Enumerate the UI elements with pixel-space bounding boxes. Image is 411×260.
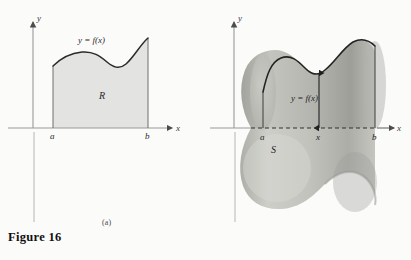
region-label-R: R — [98, 90, 105, 101]
curve-label: y = f(x) — [290, 93, 318, 103]
tick-label-b: b — [145, 131, 150, 141]
panel-caption-a: (a) — [102, 218, 111, 227]
solid-lower-shading-1 — [243, 134, 311, 202]
region-fill-R — [53, 38, 148, 128]
y-axis-label: y — [237, 13, 242, 23]
panel-b-diagram: y x y = f(x) S a x b — [205, 0, 411, 260]
tick-label-a: a — [260, 132, 265, 142]
solid-label-S: S — [271, 144, 276, 155]
x-axis-label: x — [175, 123, 180, 133]
figure-number-label: Figure 16 — [8, 230, 62, 245]
x-axis-label: x — [396, 123, 401, 133]
tick-label-b: b — [372, 132, 377, 142]
tick-label-x: x — [315, 132, 320, 142]
curve-label: y = f(x) — [77, 35, 105, 45]
figure-panel-a: y x y = f(x) R a b (a) — [0, 0, 205, 260]
figure-panel-b: y x y = f(x) S a x b (b) — [205, 0, 411, 260]
tick-label-a: a — [50, 131, 55, 141]
figure-container: y x y = f(x) R a b (a) — [0, 0, 411, 260]
y-axis-label: y — [36, 13, 41, 23]
